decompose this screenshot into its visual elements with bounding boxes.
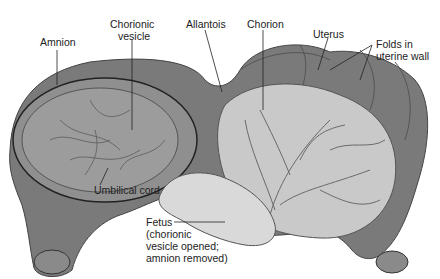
label-fetus-line2: (chorionic bbox=[146, 228, 192, 240]
label-umbilical-cord: Umbilical cord bbox=[94, 184, 160, 196]
label-fetus-line4: amnion removed) bbox=[146, 252, 228, 264]
label-chorionic-vesicle-line1: Chorionic bbox=[110, 18, 154, 30]
label-fetus-line1: Fetus bbox=[146, 216, 172, 228]
label-uterus: Uterus bbox=[313, 28, 344, 40]
right-uterine-end bbox=[376, 251, 408, 273]
label-folds-line1: Folds in bbox=[376, 38, 413, 50]
label-folds-line2: uterine wall bbox=[376, 50, 429, 62]
amnion-sac bbox=[22, 88, 178, 192]
left-uterine-end bbox=[34, 250, 70, 274]
label-chorion: Chorion bbox=[247, 18, 284, 30]
label-fetus-line3: vesicle opened; bbox=[146, 240, 219, 252]
label-chorionic-vesicle-line2: vesicle bbox=[118, 30, 150, 42]
label-allantois: Allantois bbox=[186, 18, 226, 30]
label-amnion: Amnion bbox=[40, 36, 76, 48]
